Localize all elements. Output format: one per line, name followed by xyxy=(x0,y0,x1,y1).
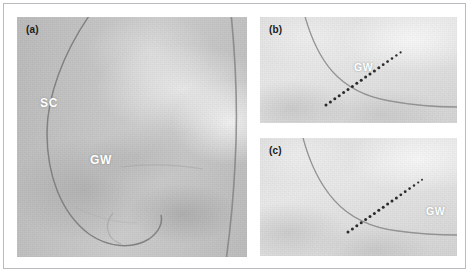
panel-a-annotation-gw: GW xyxy=(90,154,112,166)
guidewire-marker-dots xyxy=(347,179,424,234)
panel-a[interactable]: (a) SC GW xyxy=(17,17,247,257)
panel-c-overlay xyxy=(260,138,457,256)
tissue-edge-2 xyxy=(75,207,137,223)
support-catheter-core xyxy=(47,17,162,246)
panel-c-label: (c) xyxy=(269,146,282,156)
support-catheter-core xyxy=(302,138,457,235)
support-catheter-path xyxy=(47,17,162,246)
panel-c-annotation-gw: GW xyxy=(426,206,445,217)
support-catheter-core xyxy=(304,17,457,107)
figure-frame: (a) SC GW (b) GW xyxy=(3,3,466,269)
panel-b-annotation-gw: GW xyxy=(354,62,373,73)
right-edge-line xyxy=(226,17,236,257)
panel-a-overlay xyxy=(17,17,247,257)
guidewire-marker-dots xyxy=(325,51,402,106)
panel-a-label: (a) xyxy=(26,25,39,35)
panel-b-label: (b) xyxy=(269,25,282,35)
vessel-shadow-lower xyxy=(107,213,121,244)
support-catheter-path xyxy=(304,17,457,107)
panel-c[interactable]: (c) GW xyxy=(260,138,457,256)
tissue-edge xyxy=(121,165,203,169)
panel-a-annotation-sc: SC xyxy=(40,97,58,109)
support-catheter-path xyxy=(302,138,457,235)
panel-b[interactable]: (b) GW xyxy=(260,17,457,123)
